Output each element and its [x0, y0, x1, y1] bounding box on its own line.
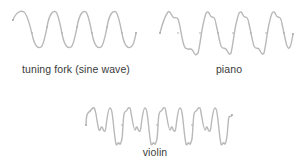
piano-label: piano	[216, 63, 242, 75]
violin-wave-graphic	[85, 108, 233, 145]
sine-wave-graphic	[12, 11, 137, 47]
waveform-diagram	[0, 0, 308, 164]
piano-wave-graphic	[159, 12, 294, 55]
tuning-fork-label: tuning fork (sine wave)	[22, 63, 130, 75]
violin-label: violin	[143, 146, 168, 158]
